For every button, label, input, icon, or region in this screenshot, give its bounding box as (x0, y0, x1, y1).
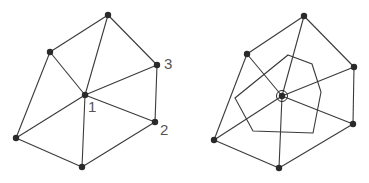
vertex-dot (13, 135, 19, 141)
vertex-label-3: 3 (164, 55, 172, 72)
vertex-dot (351, 64, 357, 70)
vertex-dot (47, 49, 53, 55)
outer-edge (353, 67, 354, 124)
spoke-edge (85, 65, 157, 95)
vertex-dot (350, 121, 356, 127)
outer-edge (279, 124, 353, 168)
outer-edge (82, 122, 155, 167)
vertex-dot (105, 12, 111, 18)
spoke-edge (282, 67, 354, 96)
spoke-edge (214, 96, 282, 140)
vertex-dot (154, 62, 160, 68)
outer-edge (155, 65, 157, 122)
spoke-edge (282, 96, 353, 124)
vertex-dot (211, 137, 217, 143)
dual-cell-polygon (235, 55, 321, 133)
outer-edge (214, 54, 247, 140)
vertex-dot (301, 13, 307, 19)
vertex-dot (244, 51, 250, 57)
vertex-dot (276, 165, 282, 171)
outer-edge (304, 16, 354, 67)
outer-edge (16, 138, 82, 167)
spoke-edge (50, 52, 85, 95)
diagram-canvas: 123 (0, 0, 369, 183)
left-triangulation: 123 (13, 12, 173, 170)
outer-edge (16, 52, 50, 138)
center-vertex-dot (279, 93, 285, 99)
spoke-edge (16, 95, 85, 138)
spoke-edge (247, 54, 282, 96)
right-triangulation-dual-cell (211, 13, 357, 171)
outer-edge (108, 15, 157, 65)
outer-edge (214, 140, 279, 168)
vertex-label-2: 2 (160, 121, 168, 138)
vertex-label-1: 1 (88, 98, 96, 115)
vertex-dot (79, 164, 85, 170)
spoke-edge (82, 95, 85, 167)
vertex-dot (152, 119, 158, 125)
